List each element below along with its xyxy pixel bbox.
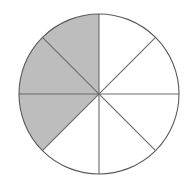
- divider-group: [19, 14, 179, 174]
- fraction-circle-figure: [0, 0, 187, 184]
- pie-circle-svg: [0, 0, 187, 184]
